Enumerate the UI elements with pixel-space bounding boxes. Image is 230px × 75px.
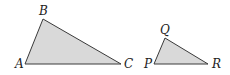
vertex-label-p: P [143, 57, 153, 71]
similar-triangles-figure: A B C P Q R [0, 0, 230, 75]
vertex-label-q: Q [160, 23, 170, 37]
triangle-abc [25, 19, 121, 64]
vertex-label-r: R [211, 57, 221, 71]
vertex-label-b: B [38, 4, 48, 18]
vertex-label-a: A [14, 57, 24, 71]
triangle-pqr [154, 38, 208, 64]
vertex-label-c: C [124, 57, 133, 71]
